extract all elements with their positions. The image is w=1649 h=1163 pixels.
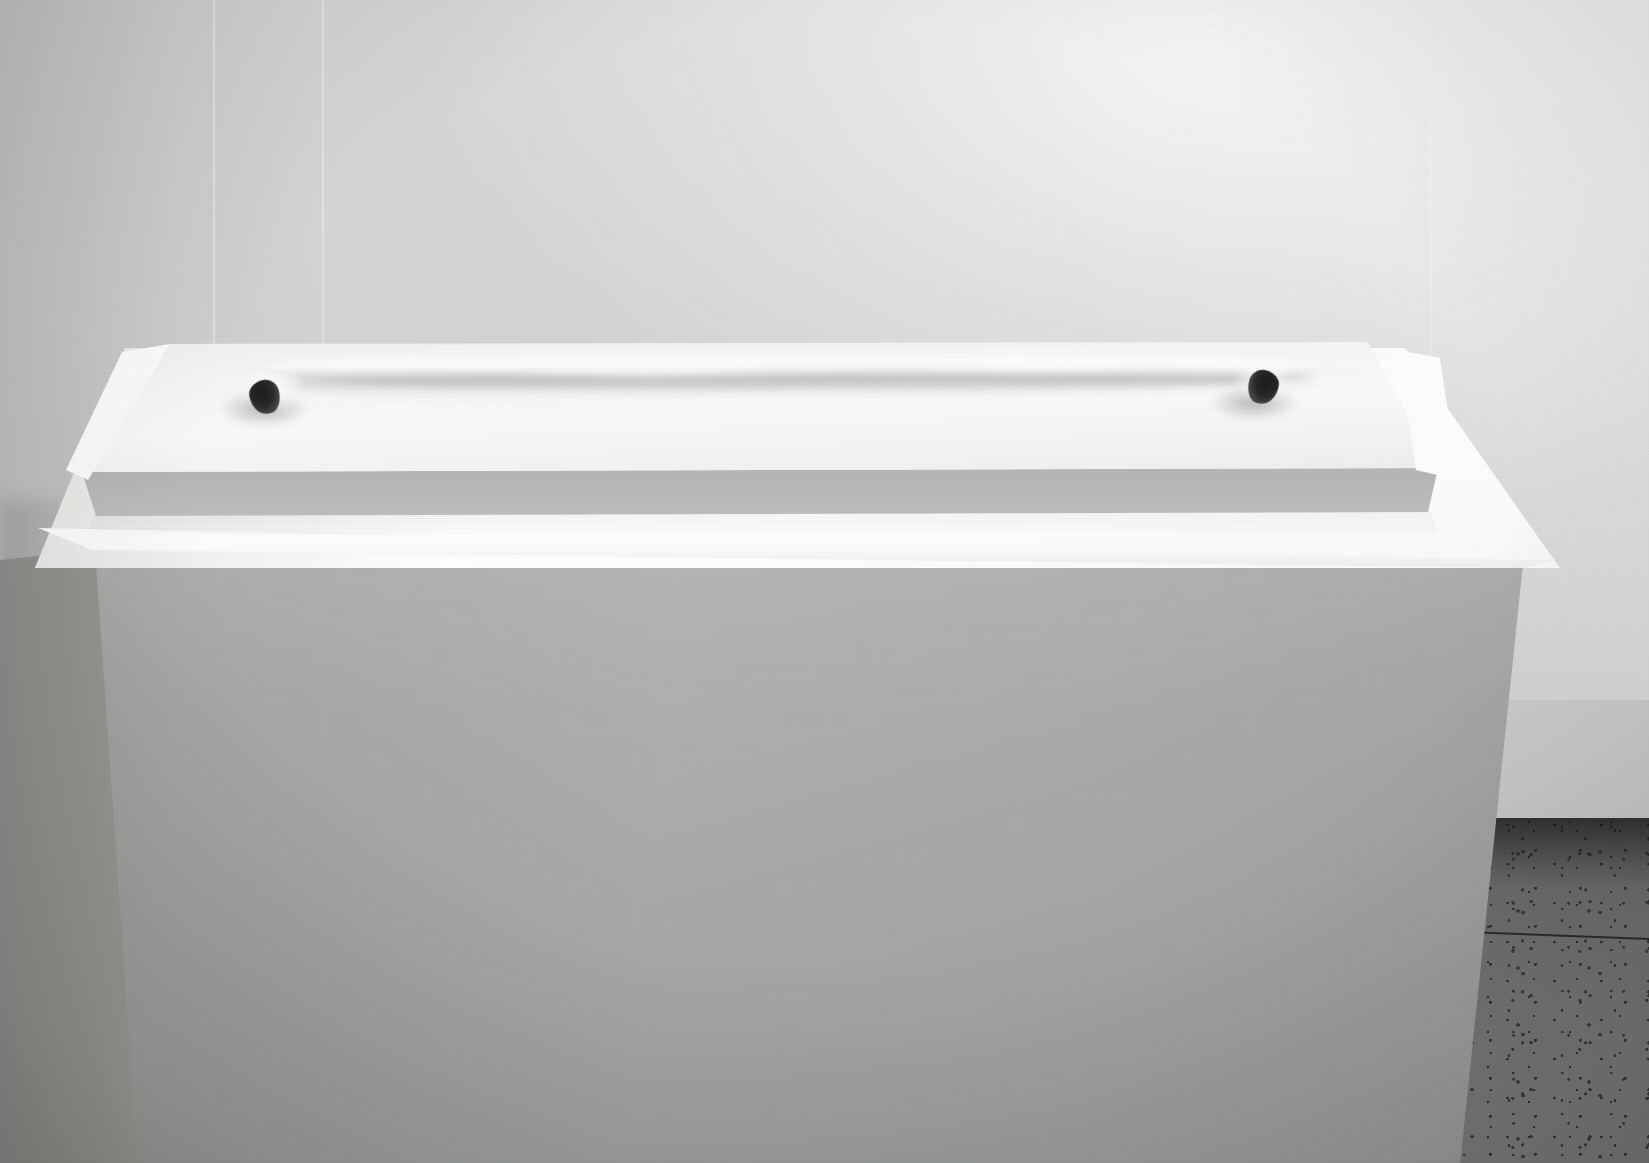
- floor-grout-line: [6, 878, 62, 1158]
- floor-grout-line: [0, 935, 250, 952]
- terrazzo-floor: [0, 818, 1649, 1163]
- floor-wall-junction-shadow: [0, 818, 1649, 888]
- floor-grout-line: [1329, 926, 1649, 940]
- photograph-scene: Gallery installation: white foam slab on…: [0, 0, 1649, 1163]
- floor-grout-line: [124, 863, 152, 1162]
- floor-speckle-texture: [0, 818, 1649, 1163]
